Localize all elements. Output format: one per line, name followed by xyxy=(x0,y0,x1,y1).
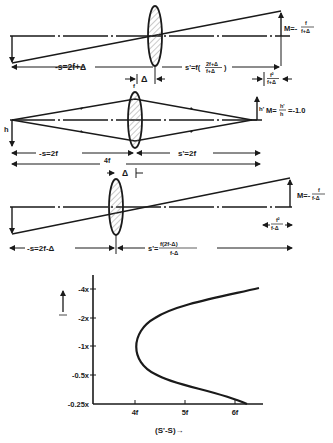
y-tick-label: -0.5x xyxy=(72,371,90,380)
top-label: f xyxy=(133,83,136,89)
magnification-curve xyxy=(136,288,259,404)
x-tick-label: 5f xyxy=(182,408,189,417)
panel-1-object-beyond-2f: -s=2f+Δ s'=f( 2f+Δ f+Δ ) Δ f² f+Δ M=- f … xyxy=(10,6,314,86)
chief-ray xyxy=(12,178,290,234)
x-axis-label: (S'-S)→ xyxy=(155,426,184,435)
object-distance-label: -s=2f xyxy=(39,149,58,158)
shift-numerator: f² xyxy=(276,217,280,223)
magnification-prefix: M=- xyxy=(284,24,298,33)
panel-2-object-at-2f: f h h' M= h' h =-1.0 -s=2f s'=2f 4f xyxy=(4,83,305,178)
magnification-numerator: f xyxy=(318,187,320,193)
x-tick-label: 6f xyxy=(232,408,239,417)
total-distance-label: 4f xyxy=(104,157,111,164)
magnification-suffix: =-1.0 xyxy=(288,106,305,115)
y-ticks: -4x -2x -1x -0.5x -0.25x xyxy=(68,285,96,409)
y-tick-label: -2x xyxy=(78,314,90,323)
magnification-numerator: f xyxy=(305,20,307,26)
delta-label: Δ xyxy=(141,74,148,84)
image-distance-numerator: 2f+Δ xyxy=(206,61,218,67)
chief-ray xyxy=(12,11,281,63)
image-distance-denominator: f-Δ xyxy=(170,250,179,256)
image-distance-prefix: s'= xyxy=(148,244,159,253)
image-distance-numerator: f(2f-Δ) xyxy=(160,241,178,247)
lens xyxy=(128,92,142,148)
image-distance-prefix: s'=f( xyxy=(185,63,201,72)
shift-denominator: f-Δ xyxy=(271,225,279,231)
image-distance-label: s'=2f xyxy=(178,149,196,158)
image-height-label: h' xyxy=(259,106,265,112)
shift-numerator: f² xyxy=(270,72,274,78)
magnification-prefix: M=- xyxy=(297,191,311,200)
x-ticks: 4f 5f 6f xyxy=(132,400,239,417)
image-distance-suffix: ) xyxy=(224,63,227,72)
delta-label: Δ xyxy=(122,168,128,178)
y-tick-label: -1x xyxy=(78,342,90,351)
image-distance-denominator: f+Δ xyxy=(206,68,215,74)
lens-imaging-diagram: -s=2f+Δ s'=f( 2f+Δ f+Δ ) Δ f² f+Δ M=- f … xyxy=(0,0,333,443)
magnification-vs-conjugate-distance-chart: -4x -2x -1x -0.5x -0.25x 4f 5f 6f (S'-S)… xyxy=(59,275,263,435)
x-tick-label: 4f xyxy=(132,408,139,417)
shift-denominator: f+Δ xyxy=(267,79,276,85)
magnification-denominator: f-Δ xyxy=(312,195,320,201)
magnification-denominator: h xyxy=(280,111,284,117)
y-tick-label: -0.25x xyxy=(68,400,90,409)
magnification-prefix: M= xyxy=(266,106,277,115)
object-height-label: h xyxy=(4,125,9,134)
y-tick-label: -4x xyxy=(78,285,90,294)
object-distance-label: -s=2f-Δ xyxy=(27,244,55,253)
object-distance-label: -s=2f+Δ xyxy=(55,62,86,72)
magnification-numerator: h' xyxy=(280,103,285,109)
lens xyxy=(109,179,123,235)
magnification-denominator: f+Δ xyxy=(301,28,310,34)
lens xyxy=(148,6,162,66)
svg-text:s'=f(: s'=f( xyxy=(185,63,201,72)
panel-3-object-inside-2f: M=- f f-Δ f² f-Δ -s=2f-Δ s'= f(2f-Δ) f-Δ xyxy=(10,178,325,256)
